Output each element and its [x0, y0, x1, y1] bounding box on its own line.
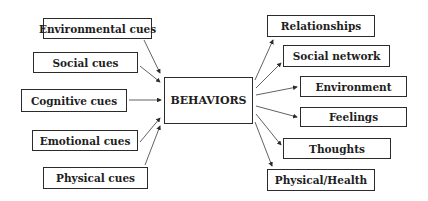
cue-cognitive: Cognitive cues	[21, 89, 127, 112]
behaviors-box: BEHAVIORS	[164, 77, 253, 124]
arrow-behaviors-to-social-network	[256, 63, 281, 88]
arrow-physical-to-behaviors	[145, 126, 160, 165]
cue-physical: Physical cues	[43, 167, 148, 189]
outcome-thoughts: Thoughts	[283, 138, 391, 159]
cue-environmental: Environmental cues	[43, 18, 152, 39]
arrow-behaviors-to-thoughts	[256, 114, 281, 145]
behaviors-label: BEHAVIORS	[170, 94, 246, 107]
outcome-label: Social network	[293, 50, 380, 62]
outcome-feelings: Feelings	[300, 107, 407, 127]
arrow-behaviors-to-environment	[256, 87, 297, 95]
cue-label: Environmental cues	[39, 23, 156, 35]
outcome-physical-health: Physical/Health	[267, 169, 375, 191]
outcome-environment: Environment	[300, 76, 407, 97]
arrow-environmental-to-behaviors	[144, 40, 160, 73]
outcome-social-network: Social network	[283, 45, 390, 67]
cue-label: Cognitive cues	[31, 95, 117, 107]
arrow-social-to-behaviors	[140, 66, 160, 82]
arrow-behaviors-to-feelings	[256, 106, 297, 117]
cue-label: Social cues	[52, 57, 118, 69]
cue-label: Physical cues	[56, 172, 135, 184]
outcome-label: Environment	[315, 81, 391, 93]
arrow-emotional-to-behaviors	[140, 118, 160, 142]
cue-social: Social cues	[33, 52, 138, 73]
cue-emotional: Emotional cues	[32, 130, 138, 151]
outcome-label: Physical/Health	[275, 174, 367, 186]
outcome-relationships: Relationships	[267, 15, 375, 37]
outcome-label: Feelings	[329, 111, 378, 123]
outcome-label: Thoughts	[309, 143, 365, 155]
outcome-label: Relationships	[281, 20, 361, 32]
cue-label: Emotional cues	[40, 135, 131, 147]
arrow-behaviors-to-physical-health	[255, 122, 272, 166]
